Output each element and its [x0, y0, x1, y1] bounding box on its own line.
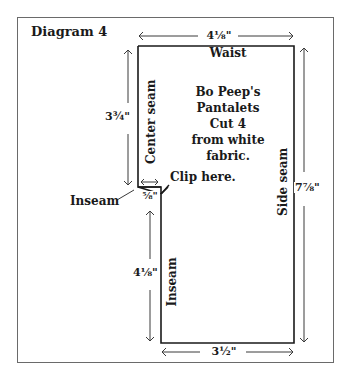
center-seam-label: Center seam: [145, 84, 157, 164]
top-width-dimension: 4⅛": [200, 30, 238, 41]
pattern-name-line: Pantalets: [178, 100, 278, 116]
pattern-name-line: from white: [178, 132, 278, 148]
notch-width-dimension: ⅝": [140, 191, 160, 201]
pattern-name-line: Cut 4: [178, 116, 278, 132]
clip-line: [161, 185, 169, 194]
inseam-edge-label: Inseam: [166, 257, 178, 307]
diagram-title: Diagram 4: [31, 25, 107, 38]
side-seam-label: Side seam: [277, 156, 289, 216]
left-lower-height-dimension: 4⅛": [132, 267, 158, 278]
left-upper-height-dimension: 3¾": [104, 111, 130, 122]
clip-here-note: Clip here.: [170, 171, 236, 183]
bottom-width-dimension: 3½": [202, 346, 246, 357]
pattern-name-line: Bo Peep's: [178, 84, 278, 100]
pattern-name-line: fabric.: [178, 148, 278, 164]
inseam-pointer-label: Inseam: [70, 195, 119, 207]
pattern-name-block: Bo Peep's Pantalets Cut 4 from white fab…: [178, 84, 278, 164]
waist-label: Waist: [198, 47, 258, 59]
right-height-dimension: 7⅞": [294, 182, 318, 193]
